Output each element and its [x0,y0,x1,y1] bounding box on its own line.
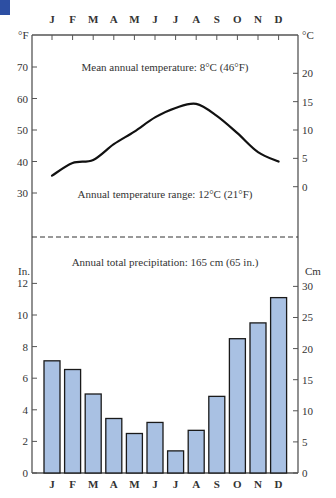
precipitation-bar [168,451,184,473]
month-label-top: J [49,13,55,25]
celsius-tick: 20 [302,67,314,79]
fahrenheit-tick: 30 [17,187,29,199]
month-label-top: N [254,13,262,25]
month-label-bottom: D [275,478,283,490]
inches-tick: 4 [23,404,29,416]
month-label-bottom: J [152,478,158,490]
inches-tick: 8 [23,341,29,353]
temperature-curve [52,104,279,176]
month-label-top: A [110,13,118,25]
centimeters-tick: 30 [302,280,314,292]
precipitation-bar [147,422,163,473]
fahrenheit-tick: 70 [17,61,29,73]
top-month-labels: JFMAMJJASOND [49,13,282,40]
precipitation-bar [85,394,101,473]
precipitation-bar [229,339,245,473]
precipitation-bar [106,418,122,473]
precipitation-bar [65,370,81,473]
month-label-bottom: M [88,478,99,490]
precipitation-bar [271,298,287,473]
month-label-bottom: M [129,478,140,490]
month-label-top: J [152,13,158,25]
precipitation-bar [44,361,60,473]
month-label-top: F [69,13,76,25]
celsius-tick: 10 [302,124,314,136]
month-label-bottom: J [49,478,55,490]
month-label-top: M [88,13,99,25]
centimeters-tick: 5 [302,436,308,448]
month-label-top: S [214,13,220,25]
celsius-tick: 15 [302,96,314,108]
temperature-axes: 706050403020151050 [17,61,314,199]
inches-tick: 6 [23,372,29,384]
fahrenheit-tick: 40 [17,156,29,168]
month-label-bottom: S [214,478,220,490]
centimeters-tick: 0 [302,467,308,479]
climograph: JFMAMJJASOND 706050403020151050 12108642… [0,0,336,498]
inches-tick: 12 [17,277,28,289]
centimeters-unit-label: Cm [305,265,321,277]
precipitation-bar [250,323,266,473]
inches-tick: 0 [23,467,29,479]
month-label-bottom: F [69,478,76,490]
precipitation-bar [188,430,204,473]
month-label-top: M [129,13,140,25]
month-label-bottom: A [192,478,200,490]
centimeters-tick: 10 [302,405,314,417]
inches-tick: 10 [17,309,29,321]
temperature-range-label: Annual temperature range: 12°C (21°F) [78,188,253,201]
centimeters-tick: 15 [302,374,314,386]
precipitation-bar [209,396,225,473]
celsius-tick: 0 [302,181,308,193]
month-label-bottom: A [110,478,118,490]
celsius-unit-label: °C [302,29,314,41]
celsius-tick: 5 [302,152,308,164]
precipitation-bars: JFMAMJJASOND [44,298,287,490]
centimeters-tick: 25 [302,311,314,323]
month-label-top: A [192,13,200,25]
month-label-bottom: J [173,478,179,490]
month-label-bottom: N [254,478,262,490]
centimeters-tick: 20 [302,343,314,355]
precipitation-axes: 121086420302520151050 [17,277,314,479]
precipitation-total-label: Annual total precipitation: 165 cm (65 i… [72,256,259,269]
fahrenheit-tick: 50 [17,124,29,136]
month-label-bottom: O [233,478,242,490]
inches-unit-label: In. [18,265,30,277]
fahrenheit-unit-label: °F [18,29,29,41]
inches-tick: 2 [23,435,29,447]
fahrenheit-tick: 60 [17,93,29,105]
month-label-top: D [275,13,283,25]
month-label-top: J [173,13,179,25]
mean-temperature-label: Mean annual temperature: 8°C (46°F) [81,61,248,74]
precipitation-bar [126,434,142,474]
month-label-top: O [233,13,242,25]
